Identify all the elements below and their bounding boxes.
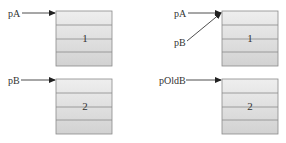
right-top-group: pA pB 1	[174, 8, 278, 66]
block-label: 2	[82, 100, 88, 112]
right-bottom-group: pOldB 2	[159, 75, 278, 134]
memory-block-2: 2	[222, 79, 278, 134]
left-top-group: pA 1	[8, 8, 112, 66]
memory-block-1: 1	[222, 11, 278, 66]
block-label: 1	[247, 32, 253, 44]
pointer-diagram: pA 1 pB 2 pA pB 1	[0, 0, 286, 143]
block-label: 1	[82, 32, 88, 44]
arrow-icon	[187, 13, 221, 41]
pointer-label-pB: pB	[8, 75, 20, 86]
memory-block-2: 2	[56, 79, 112, 134]
block-label: 2	[247, 100, 253, 112]
pointer-label-pA: pA	[8, 8, 21, 19]
left-bottom-group: pB 2	[8, 75, 112, 134]
pointer-label-pOldB: pOldB	[159, 75, 186, 86]
memory-block-1: 1	[56, 11, 112, 66]
pointer-label-pA: pA	[174, 8, 187, 19]
pointer-label-pB: pB	[174, 37, 186, 48]
